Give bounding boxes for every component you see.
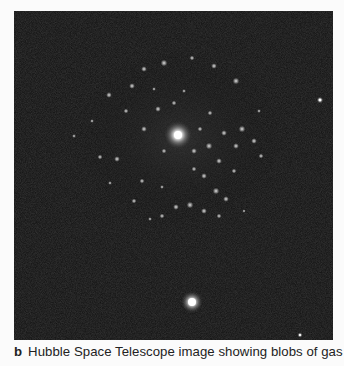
- galaxy-illustration: [14, 11, 333, 340]
- panel-label: b: [14, 344, 22, 359]
- caption-text: Hubble Space Telescope image showing blo…: [28, 344, 343, 359]
- foreground-star-bottom-right: [297, 332, 303, 338]
- hubble-galaxy-image: [14, 11, 333, 340]
- figure-caption: bHubble Space Telescope image showing bl…: [14, 344, 343, 359]
